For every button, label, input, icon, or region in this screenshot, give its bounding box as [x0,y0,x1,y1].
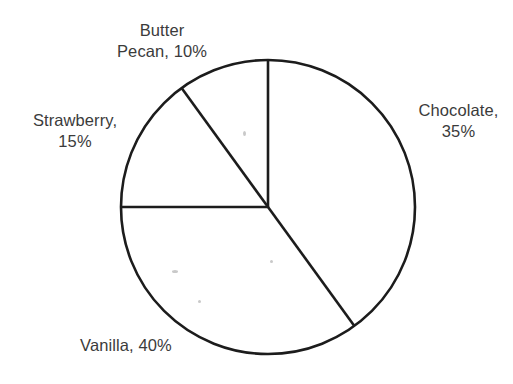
scan-speck [198,300,201,303]
scan-speck [172,270,178,273]
scan-speck [270,260,273,263]
pie-chart-figure: Butter Pecan, 10% Chocolate, 35% Strawbe… [0,0,513,384]
pie-label-chocolate: Chocolate, 35% [404,100,513,142]
pie-chart-graphic [0,0,513,384]
pie-label-butter-pecan: Butter Pecan, 10% [96,20,228,62]
pie-label-strawberry: Strawberry, 15% [8,110,142,152]
pie-label-vanilla: Vanilla, 40% [80,335,226,356]
scan-speck [243,131,246,136]
